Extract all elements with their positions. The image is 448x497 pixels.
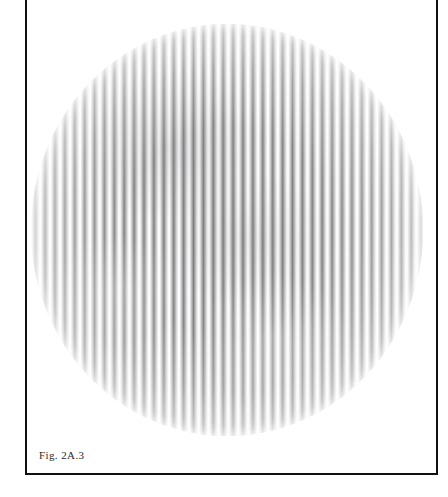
figure-page: Fig. 2A.3 <box>0 0 448 497</box>
plate-shading-overlay <box>31 24 423 436</box>
figure-caption: Fig. 2A.3 <box>39 449 84 461</box>
interferogram-image <box>31 24 423 436</box>
figure-frame: Fig. 2A.3 <box>25 0 438 475</box>
circular-aperture <box>31 24 423 436</box>
